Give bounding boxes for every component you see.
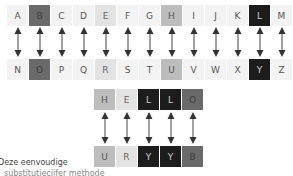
plain-cell-b: B bbox=[29, 5, 50, 26]
example-cipher-cell-r: R bbox=[116, 146, 137, 167]
double-arrow-icon bbox=[139, 27, 160, 57]
cipher-cell-u: U bbox=[161, 59, 182, 80]
cipher-cell-o: O bbox=[29, 59, 50, 80]
plain-cell-j: J bbox=[205, 5, 226, 26]
double-arrow-icon bbox=[73, 27, 94, 57]
plain-cell-f: F bbox=[117, 5, 138, 26]
example-arrows bbox=[94, 112, 203, 144]
cipher-cell-t: T bbox=[139, 59, 160, 80]
plain-cell-k: K bbox=[227, 5, 248, 26]
plain-cell-g: G bbox=[139, 5, 160, 26]
plain-cell-d: D bbox=[73, 5, 94, 26]
cipher-cell-r: R bbox=[95, 59, 116, 80]
alphabet-bottom-row: NOPQRSTUVWXYZ bbox=[7, 59, 292, 80]
example-plain-row: HELLO bbox=[94, 89, 203, 110]
double-arrow-icon bbox=[160, 112, 181, 144]
plain-cell-l: L bbox=[249, 5, 270, 26]
example-cipher-cell-b: B bbox=[182, 146, 203, 167]
double-arrow-icon bbox=[227, 27, 248, 57]
example-cipher-row: URYYB bbox=[94, 146, 203, 167]
double-arrow-icon bbox=[271, 27, 292, 57]
double-arrow-icon bbox=[205, 27, 226, 57]
example-cipher-cell-y: Y bbox=[160, 146, 181, 167]
double-arrow-icon bbox=[138, 112, 159, 144]
example-cipher-cell-y: Y bbox=[138, 146, 159, 167]
double-arrow-icon bbox=[95, 27, 116, 57]
example-plain-cell-e: E bbox=[116, 89, 137, 110]
plain-cell-m: M bbox=[271, 5, 292, 26]
plain-cell-e: E bbox=[95, 5, 116, 26]
caption-text-cutoff: substitutiecijfer methode bbox=[4, 169, 105, 176]
double-arrow-icon bbox=[94, 112, 115, 144]
double-arrow-icon bbox=[161, 27, 182, 57]
cipher-cell-y: Y bbox=[249, 59, 270, 80]
caption-text: Deze eenvoudige bbox=[0, 157, 68, 168]
cipher-cell-n: N bbox=[7, 59, 28, 80]
cipher-cell-v: V bbox=[183, 59, 204, 80]
example-plain-cell-l: L bbox=[160, 89, 181, 110]
double-arrow-icon bbox=[117, 27, 138, 57]
double-arrow-icon bbox=[182, 112, 203, 144]
double-arrow-icon bbox=[183, 27, 204, 57]
example-cipher-cell-u: U bbox=[94, 146, 115, 167]
double-arrow-icon bbox=[51, 27, 72, 57]
cipher-cell-p: P bbox=[51, 59, 72, 80]
double-arrow-icon bbox=[7, 27, 28, 57]
plain-cell-i: I bbox=[183, 5, 204, 26]
example-plain-cell-h: H bbox=[94, 89, 115, 110]
plain-cell-a: A bbox=[7, 5, 28, 26]
cipher-cell-q: Q bbox=[73, 59, 94, 80]
double-arrow-icon bbox=[29, 27, 50, 57]
plain-cell-h: H bbox=[161, 5, 182, 26]
cipher-cell-w: W bbox=[205, 59, 226, 80]
alphabet-arrows bbox=[7, 27, 292, 57]
double-arrow-icon bbox=[116, 112, 137, 144]
cipher-cell-x: X bbox=[227, 59, 248, 80]
example-plain-cell-o: O bbox=[182, 89, 203, 110]
cipher-cell-s: S bbox=[117, 59, 138, 80]
alphabet-top-row: ABCDEFGHIJKLM bbox=[7, 5, 292, 26]
plain-cell-c: C bbox=[51, 5, 72, 26]
example-plain-cell-l: L bbox=[138, 89, 159, 110]
cipher-cell-z: Z bbox=[271, 59, 292, 80]
double-arrow-icon bbox=[249, 27, 270, 57]
